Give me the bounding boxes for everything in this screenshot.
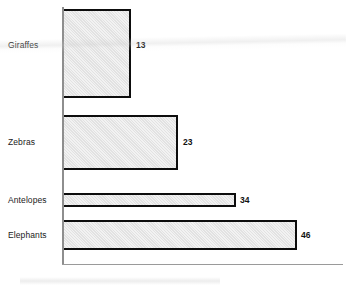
value-label-antelopes: 34 [240, 195, 249, 205]
bar-antelopes [62, 193, 236, 207]
value-label-giraffes: 13 [136, 40, 145, 50]
category-label-antelopes: Antelopes [8, 195, 47, 205]
category-label-zebras: Zebras [8, 137, 35, 147]
value-label-zebras: 23 [183, 137, 192, 147]
bar-chart-figure: Giraffes 13 Zebras 23 Antelopes 34 Eleph… [0, 0, 346, 289]
y-axis-line [62, 7, 64, 265]
category-label-elephants: Elephants [8, 230, 47, 240]
x-axis-line [62, 264, 343, 265]
value-label-elephants: 46 [301, 230, 310, 240]
bar-zebras [62, 115, 178, 170]
bar-elephants [62, 220, 297, 250]
category-label-giraffes: Giraffes [8, 40, 38, 50]
bar-giraffes [62, 9, 131, 98]
plot-area: Giraffes 13 Zebras 23 Antelopes 34 Eleph… [0, 0, 346, 289]
